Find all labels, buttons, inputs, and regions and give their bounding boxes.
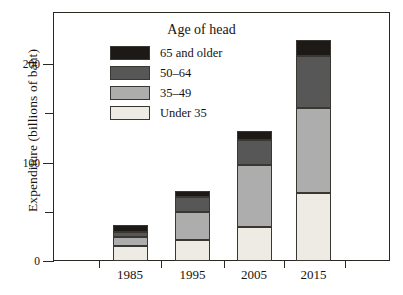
y-axis-title: Expenditure (billions of baht) [22,0,44,261]
bar-segment-1995-under-35 [175,240,210,261]
legend-swatch-icon [110,86,150,100]
y-axis-tick-minor [45,113,54,114]
y-axis-tick-label: 200 [0,58,40,70]
bar-segment-2015-65-and-older [296,40,331,56]
legend-item: 50–64 [110,64,275,82]
bar-segment-2015-50–64 [296,56,331,108]
y-axis-tick-major [43,163,54,164]
legend-swatch-icon [110,66,150,80]
y-axis-tick-label: 0 [0,255,40,267]
bar-2015 [296,12,331,261]
bar-segment-1985-under-35 [113,246,148,261]
bar-segment-1985-35–49 [113,237,148,246]
bar-segment-1995-35–49 [175,212,210,241]
y-axis-tick-label: 100 [0,157,40,169]
bar-segment-2005-35–49 [237,165,272,226]
legend-item-label: 50–64 [160,66,191,81]
legend-item-label: Under 35 [160,106,207,121]
legend-swatch-icon [110,106,150,120]
y-axis-tick-major [43,64,54,65]
bar-segment-1995-65-and-older [175,191,210,197]
x-axis-tick-label: 1995 [158,267,228,283]
legend-item-label: 65 and older [160,46,222,61]
bar-segment-2005-65-and-older [237,131,272,140]
bar-segment-1995-50–64 [175,197,210,212]
chart-figure: Expenditure (billions of baht) 0100200 1… [0,0,403,295]
y-axis-tick-minor [45,212,54,213]
legend-item: 35–49 [110,84,275,102]
legend-items: 65 and older50–6435–49Under 35 [110,44,275,122]
y-axis-tick-major [43,261,54,262]
bar-segment-2015-under-35 [296,193,331,261]
x-axis-tick-label: 2015 [279,267,349,283]
bar-segment-2015-35–49 [296,108,331,193]
legend: Age of head 65 and older50–6435–49Under … [110,22,275,124]
x-axis-tick-label: 1985 [95,267,165,283]
legend-swatch-icon [110,46,150,60]
bar-segment-2005-50–64 [237,140,272,166]
legend-title: Age of head [128,22,275,38]
legend-item: Under 35 [110,104,275,122]
bar-segment-1985-65-and-older [113,225,148,233]
legend-item-label: 35–49 [160,86,191,101]
bar-segment-1985-50–64 [113,232,148,237]
legend-item: 65 and older [110,44,275,62]
bar-segment-2005-under-35 [237,227,272,261]
